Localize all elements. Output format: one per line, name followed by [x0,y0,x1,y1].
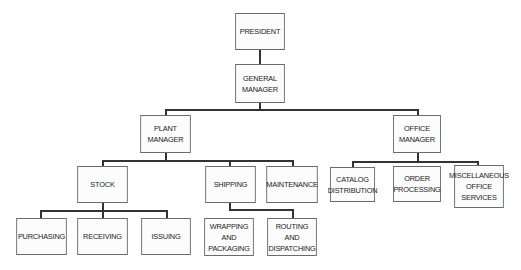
node-label: SHIPPING [214,179,248,190]
connector-line [352,161,478,163]
node-label: WRAPPING AND PACKAGING [208,221,250,254]
node-label: CATALOG DISTRIBUTION [328,174,378,196]
node-wrapping-packaging: WRAPPING AND PACKAGING [204,218,254,256]
connector-line [165,109,418,111]
node-label: ROUTING AND DISPATCHING [268,221,315,254]
node-label: PRESIDENT [240,26,280,37]
node-purchasing: PURCHASING [16,218,67,255]
node-label: ISSUING [152,231,181,242]
node-receiving: RECEIVING [77,218,128,255]
connector-line [102,160,293,162]
node-label: STOCK [90,179,114,190]
node-issuing: ISSUING [141,218,191,255]
node-label: OFFICE MANAGER [399,123,435,145]
node-label: ORDER PROCESSING [393,173,440,195]
node-label: MISCELLANEOUS OFFICE SERVICES [449,170,509,203]
node-stock: STOCK [77,166,128,203]
node-office-manager: OFFICE MANAGER [393,115,441,153]
connector-line [40,210,167,212]
node-label: GENERAL MANAGER [242,73,278,95]
node-maintenance: MAINTENANCE [266,166,318,203]
node-label: PURCHASING [18,231,65,242]
node-shipping: SHIPPING [205,166,256,203]
node-routing-dispatching: ROUTING AND DISPATCHING [267,218,317,256]
node-president: PRESIDENT [235,13,285,50]
node-label: RECEIVING [83,231,122,242]
connector-line [259,49,261,64]
node-catalog-distribution: CATALOG DISTRIBUTION [330,167,375,202]
node-order-processing: ORDER PROCESSING [393,166,441,202]
node-plant-manager: PLANT MANAGER [140,115,191,153]
connector-line [229,209,293,211]
node-label: PLANT MANAGER [148,123,184,145]
node-label: MAINTENANCE [266,179,318,190]
node-general-manager: GENERAL MANAGER [235,64,285,103]
node-misc-office-services: MISCELLANEOUS OFFICE SERVICES [454,165,504,208]
